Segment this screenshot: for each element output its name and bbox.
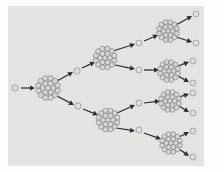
emitted-neutron [190,154,196,160]
nucleon [169,77,174,82]
neutron-track [57,96,74,105]
fission-neutron [136,100,142,106]
arrow-head-icon [130,65,135,70]
emitted-neutron [190,128,196,134]
nucleon [159,101,164,106]
neutron-track [179,132,189,137]
fission-neutron [136,67,142,73]
arrow-head-icon [30,85,35,90]
nucleon [36,88,41,93]
nucleon [171,149,176,154]
nucleon [43,76,48,81]
emitted-neutron [190,110,196,116]
nucleon [115,115,120,120]
fission-neutron [75,103,81,109]
track-shaft [144,37,153,41]
track-shaft [82,64,90,68]
nucleon [96,120,101,125]
track-shaft [176,18,188,25]
nucleon [158,71,163,76]
fission-neutron [136,40,142,46]
nucleon [170,107,175,112]
track-shaft [113,46,130,51]
nucleon [174,26,179,31]
fission-neutron [74,68,80,74]
nucleus [159,90,182,113]
neutron-track [178,76,189,82]
nucleus [96,108,120,132]
neutron-track [117,105,135,113]
track-shaft [178,64,184,66]
nucleus [93,46,117,70]
track-shaft [144,133,156,137]
track-shaft [57,74,69,81]
neutron-track [179,149,189,156]
nucleon [105,65,110,70]
nucleus [36,76,61,101]
neutron-track [21,85,35,90]
nucleon [175,66,180,71]
incident-neutron [12,85,18,91]
nucleon [166,132,171,137]
nucleon [163,20,168,25]
fission-neutron [136,127,142,133]
arrow-head-icon [183,151,189,156]
emitted-neutron [193,40,199,46]
emitted-neutron [190,58,196,64]
nucleon [100,46,105,51]
emitted-neutron [190,90,196,96]
chain-reaction-diagram [0,0,224,172]
track-shaft [179,106,185,109]
nucleon [165,90,170,95]
nucleon [177,138,182,143]
nucleon [157,31,162,36]
track-shaft [57,96,70,103]
neutron-track [83,109,98,116]
arrow-head-icon [186,38,192,43]
neutron-track [144,133,161,140]
track-shaft [144,102,155,103]
emitted-neutron [193,11,199,17]
nucleon [168,37,173,42]
neutron-track [176,16,192,25]
nucleus [158,60,181,83]
neutron-track [57,72,73,81]
nucleus-layer [36,20,183,155]
nucleon [164,60,169,65]
nucleon [176,96,181,101]
track-shaft [115,65,130,68]
neutron-track [116,128,135,133]
arrow-head-icon [129,43,135,48]
arrow-head-icon [183,93,189,98]
nucleon [108,127,113,132]
nucleon [112,53,117,58]
neutron-track [144,67,159,72]
track-shaft [176,37,187,41]
neutron-track [144,35,158,41]
nucleon [48,95,53,100]
neutron-track [82,62,95,68]
neutron-track [113,43,135,51]
neutron-track [179,106,189,112]
track-shaft [116,128,130,130]
neutron-track [178,61,189,66]
neutron-track [176,37,192,43]
arrow-head-icon [130,128,135,133]
nucleus [157,20,180,43]
track-shaft [117,107,130,113]
nucleon [55,83,60,88]
neutron-track [115,65,135,71]
track-shaft [83,109,93,113]
track-shaft [178,76,185,80]
fission-chain-reaction-figure [0,0,224,172]
neutron-track [144,99,160,104]
nucleon [93,58,98,63]
nucleon [103,108,108,113]
nucleus [160,132,183,155]
nucleon [160,143,165,148]
emitted-neutron [190,80,196,86]
